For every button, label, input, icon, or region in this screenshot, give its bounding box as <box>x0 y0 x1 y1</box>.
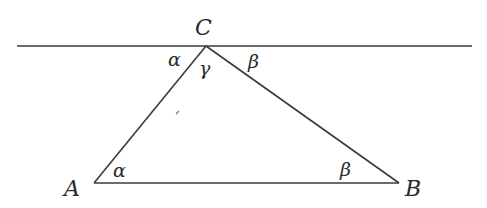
stray-mark <box>176 111 179 114</box>
vertex-label-b: B <box>404 176 421 201</box>
vertex-label-a: A <box>62 176 80 201</box>
angle-label-alpha-bottom: α <box>113 159 126 181</box>
angle-label-beta-top: β <box>247 50 259 72</box>
side-cb <box>206 46 399 183</box>
angle-label-gamma: γ <box>199 57 211 79</box>
vertex-label-c: C <box>195 15 212 40</box>
side-ac <box>94 46 206 183</box>
angle-label-alpha-top: α <box>168 48 181 70</box>
angle-label-beta-bottom: β <box>339 158 351 180</box>
triangle-diagram: C α γ β A α β B <box>0 0 487 208</box>
